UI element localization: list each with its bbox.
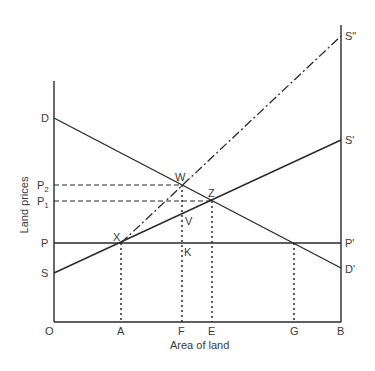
- x-axis-title: Area of land: [170, 339, 229, 351]
- label-P2: P2: [37, 179, 49, 194]
- label-D-prime: D': [345, 263, 355, 275]
- label-F: F: [178, 325, 185, 337]
- y-axis-title: Land prices: [18, 176, 30, 233]
- label-P1: P1: [37, 195, 49, 210]
- point-Z: Z: [208, 187, 215, 199]
- supply-curve: [54, 140, 341, 273]
- shifted-supply-curve: [121, 36, 341, 243]
- label-S-double-prime: S": [345, 30, 356, 42]
- point-X: X: [113, 231, 121, 243]
- label-G: G: [290, 325, 299, 337]
- label-D: D: [41, 112, 49, 124]
- point-W: W: [175, 171, 186, 183]
- label-B: B: [337, 325, 344, 337]
- point-V: V: [185, 215, 193, 227]
- label-E: E: [208, 325, 215, 337]
- label-P-prime: P': [345, 237, 354, 249]
- point-K: K: [184, 246, 192, 258]
- land-market-diagram: D P2 P1 P S O S" S' P' D' A F E G B W Z …: [0, 0, 375, 371]
- demand-curve: [54, 118, 341, 268]
- label-O: O: [45, 325, 54, 337]
- label-S: S: [41, 267, 48, 279]
- label-P: P: [41, 237, 48, 249]
- label-S-prime: S': [345, 134, 354, 146]
- label-A: A: [117, 325, 125, 337]
